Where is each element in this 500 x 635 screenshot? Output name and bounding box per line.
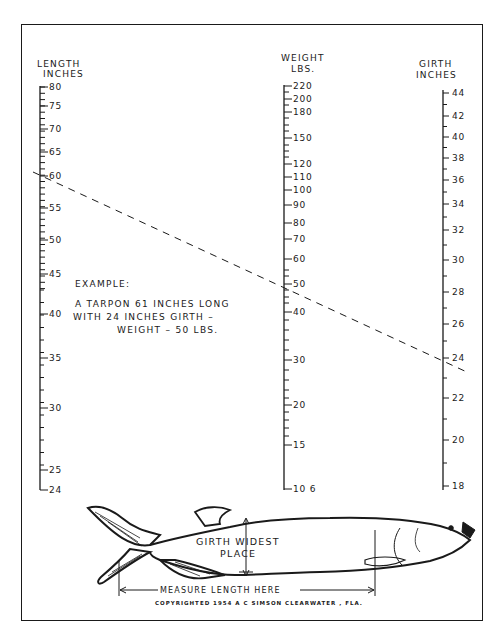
girth-tick-label: 40	[452, 132, 465, 142]
weight-tick-label: 20	[293, 400, 306, 410]
length-tick-label: 40	[49, 309, 62, 319]
weight-tick-label: 90	[293, 200, 306, 210]
weight-tick-label: 70	[293, 234, 306, 244]
weight-tick-label: 10 6	[293, 484, 316, 494]
weight-tick-label: 200	[293, 94, 313, 104]
length-tick-label: 70	[49, 124, 62, 134]
length-tick-label: 75	[49, 101, 62, 111]
nomogram: LENGTH INCHES 80757065605550454035302524…	[0, 0, 500, 635]
weight-axis-unit: LBS.	[291, 64, 315, 74]
length-axis-unit: INCHES	[43, 69, 84, 79]
weight-tick-label: 80	[293, 218, 306, 228]
weight-tick-label: 110	[293, 172, 313, 182]
girth-tick-label: 34	[452, 199, 465, 209]
weight-tick-label: 30	[293, 355, 306, 365]
weight-tick-label: 50	[293, 279, 306, 289]
weight-tick-label: 100	[293, 185, 313, 195]
girth-tick-label: 32	[452, 225, 465, 235]
girth-tick-label: 30	[452, 255, 465, 265]
example-line-3: WEIGHT – 50 LBS.	[117, 325, 218, 335]
length-tick-label: 55	[49, 203, 62, 213]
length-tick-label: 80	[49, 82, 62, 92]
weight-tick-label: 40	[293, 307, 306, 317]
weight-axis-title: WEIGHT	[281, 53, 325, 63]
girth-label-line-1: GIRTH WIDEST	[196, 536, 280, 547]
girth-axis: GIRTH INCHES 444240383634323028262422201…	[416, 59, 465, 491]
girth-tick-label: 44	[452, 88, 465, 98]
length-tick-label: 25	[49, 465, 62, 475]
length-tick-label: 35	[49, 353, 62, 363]
girth-tick-label: 20	[452, 435, 465, 445]
length-axis-title: LENGTH	[37, 59, 81, 69]
example-line	[33, 172, 469, 373]
girth-tick-label: 24	[452, 353, 465, 363]
girth-tick-label: 42	[452, 111, 465, 121]
tarpon-illustration	[88, 507, 475, 596]
weight-tick-label: 15	[293, 440, 306, 450]
measure-length-label: MEASURE LENGTH HERE	[160, 586, 281, 595]
example-line-1: A TARPON 61 INCHES LONG	[75, 299, 230, 309]
length-tick-label: 50	[49, 235, 62, 245]
length-tick-label: 24	[49, 485, 62, 495]
length-tick-label: 30	[49, 403, 62, 413]
girth-tick-label: 36	[452, 175, 465, 185]
example-heading: EXAMPLE:	[75, 279, 130, 289]
girth-axis-title: GIRTH	[419, 59, 453, 69]
example-note: EXAMPLE: A TARPON 61 INCHES LONG WITH 24…	[73, 279, 230, 335]
length-tick-label: 60	[49, 171, 62, 181]
girth-tick-label: 22	[452, 393, 465, 403]
girth-label-line-2: PLACE	[220, 548, 256, 559]
length-tick-label: 45	[49, 269, 62, 279]
weight-tick-label: 120	[293, 159, 313, 169]
girth-tick-label: 28	[452, 287, 465, 297]
girth-tick-label: 38	[452, 153, 465, 163]
weight-tick-label: 180	[293, 107, 313, 117]
girth-tick-label: 18	[452, 481, 465, 491]
girth-axis-unit: INCHES	[416, 70, 457, 80]
copyright-note: COPYRIGHTED 1954 A C SIMSON CLEARWATER ,…	[155, 600, 363, 606]
length-axis: LENGTH INCHES 80757065605550454035302524	[37, 59, 84, 495]
weight-tick-label: 220	[293, 81, 313, 91]
weight-axis: WEIGHT LBS. 2202001801501201101009080706…	[281, 53, 325, 494]
length-tick-label: 65	[49, 147, 62, 157]
example-line-2: WITH 24 INCHES GIRTH –	[73, 312, 214, 322]
girth-tick-label: 26	[452, 319, 465, 329]
weight-tick-label: 60	[293, 254, 306, 264]
weight-tick-label: 150	[293, 133, 313, 143]
